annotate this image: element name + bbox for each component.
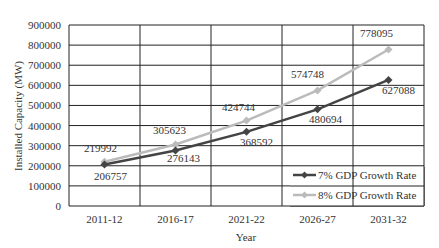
x-axis-ticks: 2011-122016-172021-222026-272031-32 <box>86 213 406 225</box>
y-tick-label: 800000 <box>28 39 62 51</box>
y-tick-label: 200000 <box>28 160 62 172</box>
data-label: 305623 <box>153 124 187 136</box>
diamond-marker-icon <box>243 128 251 136</box>
data-label: 574748 <box>291 68 325 80</box>
data-label: 276143 <box>167 152 201 164</box>
x-tick-label: 2016-17 <box>157 213 194 225</box>
y-axis-ticks: 0100000200000300000400000500000600000700… <box>28 19 62 212</box>
data-label: 424744 <box>222 101 256 113</box>
diamond-marker-icon <box>385 76 393 84</box>
x-tick-label: 2011-12 <box>86 213 122 225</box>
data-label: 206757 <box>94 170 128 182</box>
y-tick-label: 0 <box>56 200 62 212</box>
data-label: 778095 <box>360 27 394 39</box>
x-tick-label: 2031-32 <box>370 213 407 225</box>
y-tick-label: 400000 <box>28 120 62 132</box>
line-chart: 0100000200000300000400000500000600000700… <box>0 0 439 248</box>
y-tick-label: 100000 <box>28 180 62 192</box>
data-label: 368592 <box>240 136 273 148</box>
data-label: 627088 <box>382 84 416 96</box>
y-axis-label: Installed Capacity (MW) <box>12 61 25 171</box>
data-label: 219992 <box>84 142 117 154</box>
legend-label: 7% GDP Growth Rate <box>318 169 416 181</box>
diamond-marker-icon <box>314 105 322 113</box>
chart-canvas: 0100000200000300000400000500000600000700… <box>0 0 439 248</box>
x-tick-label: 2021-22 <box>228 213 265 225</box>
y-tick-label: 900000 <box>28 19 62 31</box>
data-label: 480694 <box>309 113 343 125</box>
diamond-marker-icon <box>243 117 251 125</box>
y-tick-label: 600000 <box>28 79 62 91</box>
x-axis-label: Year <box>236 231 257 243</box>
x-tick-label: 2026-27 <box>299 213 336 225</box>
y-tick-label: 300000 <box>28 140 62 152</box>
y-tick-label: 700000 <box>28 59 62 71</box>
y-tick-label: 500000 <box>28 99 62 111</box>
legend: 7% GDP Growth Rate8% GDP Growth Rate <box>290 167 424 206</box>
legend-label: 8% GDP Growth Rate <box>318 189 416 201</box>
